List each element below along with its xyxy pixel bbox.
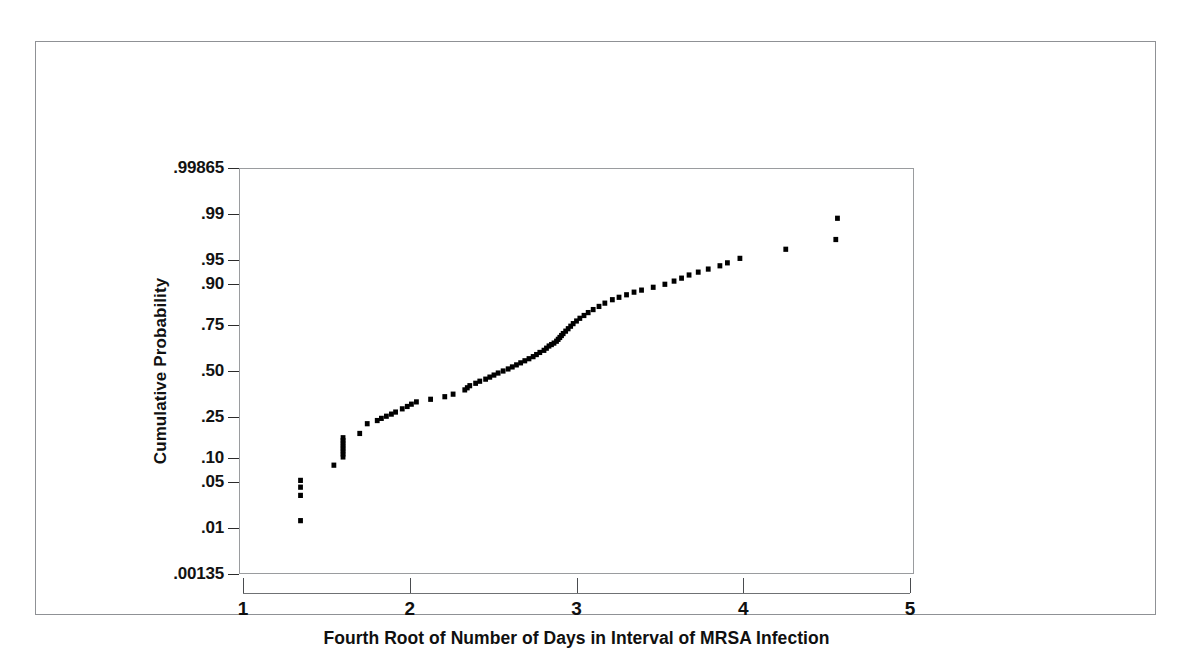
data-point <box>341 435 346 440</box>
data-point <box>496 370 501 375</box>
y-axis-labels: .00135.01.05.10.25.50.75.90.95.99.99865 <box>156 168 224 574</box>
data-point <box>375 418 380 423</box>
data-point <box>624 292 629 297</box>
data-point <box>492 372 497 377</box>
x-axis-tick-label: 5 <box>905 598 916 620</box>
x-axis-tick-label: 3 <box>571 598 582 620</box>
data-point <box>506 366 511 371</box>
data-point <box>477 379 482 384</box>
data-point <box>835 216 840 221</box>
x-axis-tick-label: 1 <box>238 598 249 620</box>
data-point <box>473 381 478 386</box>
x-axis-tick-label: 4 <box>738 598 749 620</box>
data-point <box>522 358 527 363</box>
data-point <box>501 368 506 373</box>
data-point <box>527 356 532 361</box>
y-axis-tick <box>228 528 239 529</box>
data-point <box>298 518 303 523</box>
data-point <box>442 394 447 399</box>
data-point <box>400 406 405 411</box>
data-point <box>672 279 677 284</box>
data-point <box>451 392 456 397</box>
data-point <box>298 485 303 490</box>
plot-area <box>239 168 914 574</box>
y-axis-tick <box>228 214 239 215</box>
y-axis-tick-label: .99 <box>201 204 224 224</box>
x-axis-line <box>243 593 910 594</box>
data-point <box>414 399 419 404</box>
data-point <box>662 282 667 287</box>
data-point <box>384 414 389 419</box>
data-point <box>409 402 414 407</box>
data-point <box>833 237 838 242</box>
data-point <box>483 377 488 382</box>
data-point <box>610 297 615 302</box>
y-axis-tick-label: .50 <box>201 361 224 381</box>
x-axis-tick <box>743 578 744 593</box>
data-point <box>365 421 370 426</box>
y-axis-ticks <box>228 168 239 574</box>
y-axis-tick <box>228 458 239 459</box>
y-axis-tick-label: .25 <box>201 407 224 427</box>
data-point <box>783 247 788 252</box>
data-point <box>393 409 398 414</box>
data-point <box>582 313 587 318</box>
y-axis-tick-label: .95 <box>201 250 224 270</box>
x-axis-tick <box>243 578 244 593</box>
data-point <box>591 307 596 312</box>
x-axis-tick <box>410 578 411 593</box>
y-axis-tick-label: .00135 <box>173 564 224 584</box>
data-point <box>586 310 591 315</box>
y-axis-tick <box>228 284 239 285</box>
data-point <box>738 256 743 261</box>
y-axis-tick <box>228 482 239 483</box>
data-point <box>487 375 492 380</box>
x-axis-tick-label: 2 <box>404 598 415 620</box>
data-point <box>725 260 730 265</box>
data-point <box>510 364 515 369</box>
y-axis-tick <box>228 371 239 372</box>
y-axis-tick <box>228 325 239 326</box>
data-point <box>632 290 637 295</box>
x-axis-ticks <box>243 578 910 593</box>
data-point <box>518 360 523 365</box>
data-point <box>357 431 362 436</box>
data-point <box>389 412 394 417</box>
data-point <box>428 397 433 402</box>
data-point <box>331 463 336 468</box>
data-point <box>602 301 607 306</box>
y-axis-tick-label: .01 <box>201 518 224 538</box>
data-point <box>706 266 711 271</box>
y-axis-tick-label: .99865 <box>173 158 224 178</box>
data-point <box>514 362 519 367</box>
data-point <box>687 272 692 277</box>
x-axis-tick <box>577 578 578 593</box>
data-point <box>679 276 684 281</box>
data-point <box>651 285 656 290</box>
y-axis-tick <box>228 168 239 169</box>
data-point <box>617 295 622 300</box>
y-axis-tick-label: .10 <box>201 448 224 468</box>
data-point <box>405 404 410 409</box>
x-axis-title: Fourth Root of Number of Days in Interva… <box>239 628 914 649</box>
y-axis-tick-label: .05 <box>201 472 224 492</box>
y-axis-tick-label: .90 <box>201 274 224 294</box>
data-point <box>379 416 384 421</box>
data-point <box>298 478 303 483</box>
data-point <box>639 288 644 293</box>
y-axis-tick <box>228 260 239 261</box>
data-point <box>696 270 701 275</box>
data-point <box>577 316 582 321</box>
y-axis-tick <box>228 417 239 418</box>
data-point <box>467 383 472 388</box>
figure-outer-border: Cumulative Probability .00135.01.05.10.2… <box>35 41 1156 615</box>
data-point <box>298 493 303 498</box>
y-axis-tick-label: .75 <box>201 315 224 335</box>
data-point <box>597 304 602 309</box>
scatter-points-layer <box>239 168 914 574</box>
x-axis-labels: 12345 <box>243 598 910 624</box>
y-axis-tick <box>228 574 239 575</box>
data-point <box>537 350 542 355</box>
data-point <box>718 263 723 268</box>
x-axis-tick <box>910 578 911 593</box>
